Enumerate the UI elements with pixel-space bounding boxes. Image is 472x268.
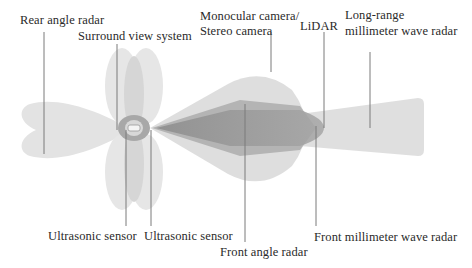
label-monocular-camera-line1: Monocular camera/: [200, 9, 299, 24]
label-long-range-radar-line2: millimeter wave radar: [345, 24, 457, 39]
coverage-zones: [0, 0, 472, 268]
label-monocular-camera-line2: Stereo camera: [200, 24, 272, 39]
label-surround-view-system: Surround view system: [78, 29, 192, 44]
sensor-coverage-diagram: Rear angle radar Surround view system Mo…: [0, 0, 472, 268]
label-front-angle-radar: Front angle radar: [220, 245, 308, 260]
label-front-mmwave-radar: Front millimeter wave radar: [314, 230, 457, 245]
label-lidar: LiDAR: [300, 19, 338, 34]
label-long-range-radar-line1: Long-range: [345, 8, 404, 23]
label-rear-angle-radar: Rear angle radar: [20, 13, 104, 28]
label-ultrasonic-sensor-left: Ultrasonic sensor: [48, 229, 137, 244]
vehicle-icon: [128, 125, 140, 131]
label-ultrasonic-sensor-right: Ultrasonic sensor: [144, 229, 233, 244]
